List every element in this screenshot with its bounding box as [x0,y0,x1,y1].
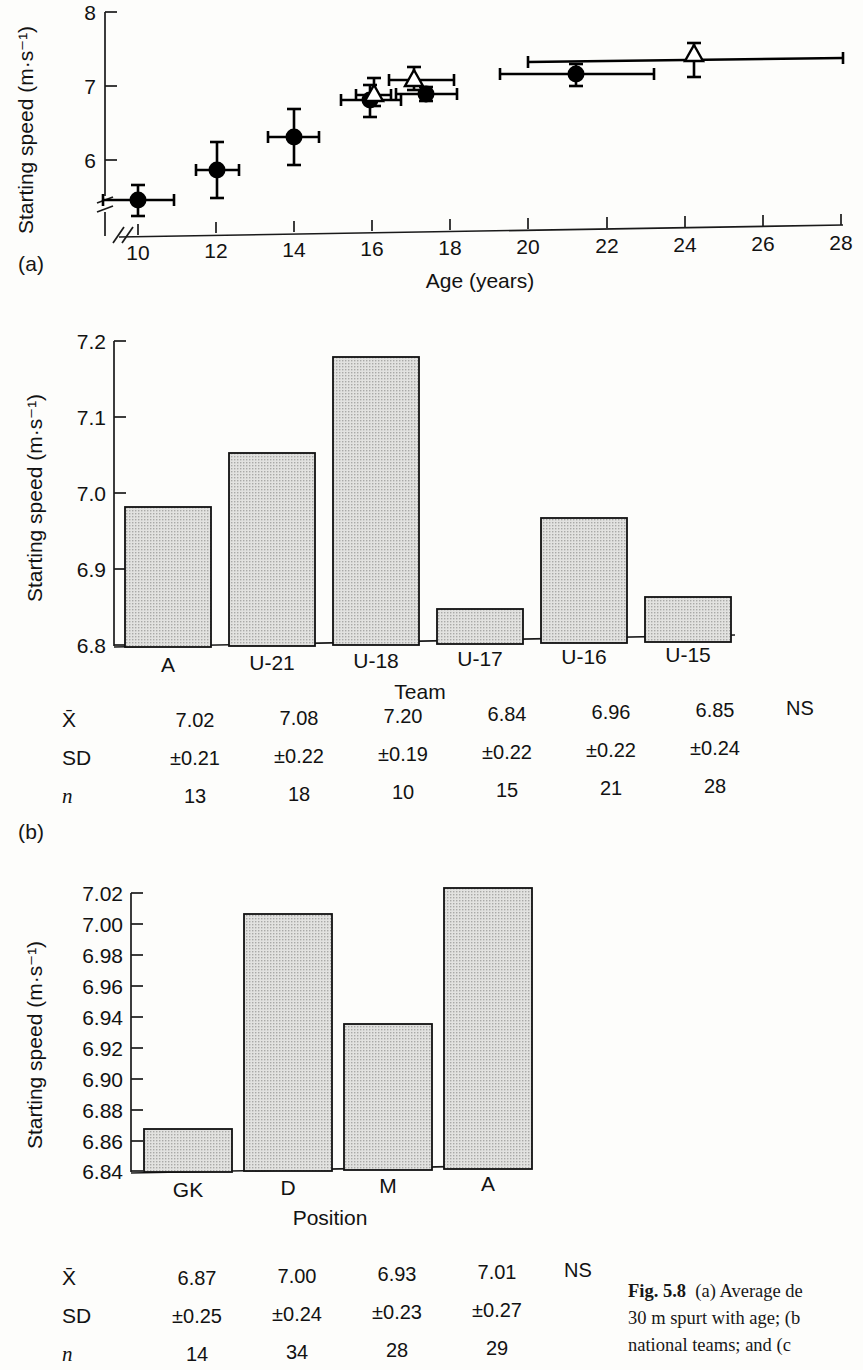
panel-b-ytick-7-0: 7.0 [77,482,106,505]
panel-b-y-axis-label: Starting speed (m·s⁻¹) [23,394,46,602]
panel-a-ytick-7: 7 [84,75,96,98]
stat-sd-A: ±0.21 [170,747,220,769]
stat-mean-U-16: 6.96 [592,701,631,723]
stat-sd-U-18: ±0.19 [378,743,428,765]
cat-label-D: D [280,1176,295,1199]
bar-U-16 [541,518,627,643]
panel-a-x-axis-line [119,225,843,237]
data-point [396,86,457,103]
data-point [103,185,174,216]
stat-row-label-mean: X̄ [62,708,76,731]
bar-A [125,507,211,647]
panel-a-x-break-1 [113,227,124,243]
panel-a-xtick-22: 22 [595,234,618,257]
stat-mean-A: 7.01 [478,1261,517,1283]
stat-mean-U-18: 7.20 [384,705,423,727]
panel-a-chart: Starting speed (m·s⁻¹) 8 7 6 [0,0,863,300]
panel-b-stats-table: X̄ SD n 7.02 7.08 7.20 6.84 6.96 6.85 NS… [62,697,814,808]
stat-row-label-n: n [62,784,73,808]
bar-GK [144,1129,232,1172]
stat-n-A: 13 [184,785,206,807]
panel-c-ytick-6-98: 6.98 [82,944,123,967]
stat-significance-b: NS [786,697,814,719]
panel-b-ytick-6-9: 6.9 [77,558,106,581]
bar-U-15 [645,597,731,642]
bar-A [444,888,532,1169]
cat-label-U-16: U-16 [561,645,607,668]
stat-n-M: 28 [386,1339,408,1361]
panel-a-x-axis-label: Age (years) [426,269,535,292]
panel-a-xtick-20: 20 [516,235,539,258]
stat-mean-D: 7.00 [278,1265,317,1287]
panel-a-tag: (a) [18,252,44,276]
panel-c-stats-table: X̄ SD n 6.87 7.00 6.93 7.01 NS ±0.25 ±0.… [62,1259,592,1366]
cat-label-GK: GK [173,1178,203,1201]
panel-c-y-ticks: 7.02 7.00 6.98 6.96 6.94 6.92 6.90 6.88 … [82,882,143,1183]
bar-M [344,1024,432,1170]
stat-n-U-18: 10 [392,781,414,803]
stat-mean-U-21: 7.08 [280,707,319,729]
cat-label-A: A [481,1172,495,1195]
caption-line-1: Fig. 5.8 (a) Average de [628,1278,803,1305]
stat-row-label-mean: X̄ [62,1266,76,1289]
panel-a-xtick-26: 26 [751,232,774,255]
cat-label-M: M [379,1174,397,1197]
stat-sd-GK: ±0.25 [172,1305,222,1327]
caption-line-1-rest: (a) Average de [686,1281,803,1301]
panel-c-x-axis-label: Position [293,1206,368,1229]
stat-n-D: 34 [286,1341,308,1363]
cat-label-U-21: U-21 [249,651,295,674]
stat-sd-A: ±0.27 [472,1299,522,1321]
cat-label-U-17: U-17 [457,647,503,670]
panel-b-ytick-6-8: 6.8 [77,634,106,657]
data-point [268,109,319,165]
bar-D [244,914,332,1171]
stat-n-A: 29 [486,1337,508,1359]
stat-sd-M: ±0.23 [372,1301,422,1323]
panel-b-x-axis-label: Team [394,680,445,703]
panel-a-ytick-6: 6 [84,149,96,172]
panel-a-y-axis-label: Starting speed (m·s⁻¹) [14,26,37,234]
panel-a-ytick-8: 8 [84,1,96,24]
panel-a-xtick-12: 12 [204,239,227,262]
panel-b-y-ticks: 7.2 7.1 7.0 6.9 6.8 [77,330,126,657]
panel-c-y-axis-label: Starting speed (m·s⁻¹) [23,941,46,1149]
panel-a-y-ticks: 8 7 6 [84,1,117,172]
stat-mean-U-15: 6.85 [696,699,735,721]
panel-b-category-labels: A U-21 U-18 U-17 U-16 U-15 [161,643,711,676]
panel-a-axis-break-lower [97,206,113,212]
bar-U-18 [333,357,419,645]
panel-c-ytick-6-88: 6.88 [82,1099,123,1122]
stat-n-U-15: 28 [704,775,726,797]
data-point [389,67,454,90]
caption-line-2: 30 m spurt with age; (b [628,1305,803,1332]
stat-n-U-21: 18 [288,783,310,805]
data-point [500,64,654,86]
bar-U-21 [229,453,315,646]
stat-n-GK: 14 [186,1343,208,1365]
panel-a-xtick-16: 16 [360,237,383,260]
panel-c-ytick-6-96: 6.96 [82,975,123,998]
cat-label-A: A [161,653,175,676]
panel-a-x-ticks: 10 12 14 16 18 20 22 24 26 28 [126,214,852,264]
stat-mean-A: 7.02 [176,709,215,731]
panel-c-ytick-6-90: 6.90 [82,1068,123,1091]
cat-label-U-15: U-15 [665,643,711,666]
figure-caption: Fig. 5.8 (a) Average de 30 m spurt with … [628,1278,803,1359]
caption-line-3: national teams; and (c [628,1332,803,1359]
stat-sd-U-16: ±0.22 [586,739,636,761]
panel-a-xtick-10: 10 [126,241,149,264]
stat-row-label-sd: SD [62,1304,91,1327]
panel-b-ytick-7-1: 7.1 [77,406,106,429]
panel-b-ytick-7-2: 7.2 [77,330,106,353]
panel-c-ytick-7-00: 7.00 [82,913,123,936]
data-point [196,142,239,198]
panel-a-xtick-14: 14 [282,238,306,261]
data-point [356,78,391,106]
stat-mean-M: 6.93 [378,1263,417,1285]
stat-sd-U-21: ±0.22 [274,745,324,767]
panel-c-ytick-6-84: 6.84 [82,1160,123,1183]
stat-row-label-sd: SD [62,746,91,769]
panel-b-bars [125,357,731,647]
panel-c-bars [144,888,532,1172]
